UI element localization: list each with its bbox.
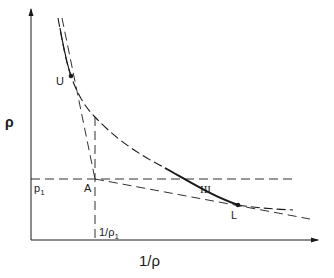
diagram-canvas: U L A III p1 1/ρ1 ρ 1/ρ: [0, 0, 334, 278]
inv-rho1-label-main: 1/ρ: [99, 226, 114, 238]
point-l-marker: [236, 203, 241, 208]
tangent-u-line: [62, 18, 95, 179]
curve-dashed-upper: [58, 18, 165, 168]
x-axis-label: 1/ρ: [139, 252, 160, 269]
point-u-marker: [69, 74, 74, 79]
point-u-label: U: [56, 75, 64, 87]
curve-dashed-tail: [238, 205, 293, 210]
point-l-label: L: [231, 209, 237, 221]
p1-label: p1: [34, 182, 45, 197]
point-a-label: A: [84, 182, 92, 194]
inv-rho1-label: 1/ρ1: [99, 226, 119, 241]
y-axis-label: ρ: [5, 114, 14, 130]
inv-rho1-label-sub: 1: [114, 232, 119, 241]
region-iii-label: III: [200, 183, 211, 195]
p1-label-sub: 1: [40, 188, 45, 197]
